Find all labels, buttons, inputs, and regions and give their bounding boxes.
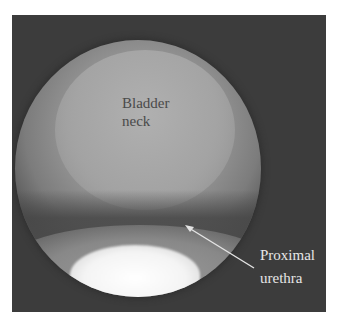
label-proximal-urethra-line1: Proximal xyxy=(260,246,315,264)
label-proximal-urethra: Proximal urethra xyxy=(260,246,315,287)
label-proximal-urethra-line2: urethra xyxy=(260,269,315,287)
